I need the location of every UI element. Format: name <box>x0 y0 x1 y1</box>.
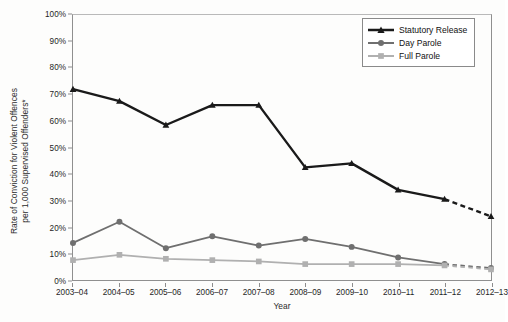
x-axis-tick-mark <box>445 283 446 287</box>
y-axis-ticks: 0%10%20%30%40%50%60%70%80%90%100% <box>36 8 72 288</box>
data-point <box>302 236 308 242</box>
y-axis-tick-label: 70% <box>50 90 66 99</box>
legend-item-statutory-release: Statutory Release <box>368 23 467 36</box>
x-axis-tick-label: 2012–13 <box>476 288 508 297</box>
x-axis-title: Year <box>72 301 492 311</box>
y-axis-title-line-2: per 1,000 Supervised Offenders* <box>20 88 32 234</box>
x-axis-tick-label: 2005–06 <box>149 288 181 297</box>
y-axis-tick-label: 30% <box>50 196 66 205</box>
legend-marker-circle-icon <box>368 37 394 48</box>
y-axis-title: Rate of Conviction for Violent Offences … <box>0 0 40 322</box>
data-point <box>256 243 262 249</box>
legend-marker-triangle-icon <box>368 24 394 35</box>
y-axis-tick-label: 90% <box>50 36 66 45</box>
data-point <box>488 267 494 273</box>
data-point <box>70 240 76 246</box>
x-axis-tick-label: 2008–09 <box>289 288 321 297</box>
y-axis-tick-label: 10% <box>50 250 66 259</box>
x-axis-tick-mark <box>259 283 260 287</box>
x-axis-tick-mark <box>352 283 353 287</box>
y-axis-tick-label: 0% <box>54 277 66 286</box>
data-point <box>349 244 355 250</box>
data-point <box>163 245 169 251</box>
x-axis-tick-label: 2006–07 <box>196 288 228 297</box>
x-axis-tick-mark <box>399 283 400 287</box>
x-axis-tick-label: 2003–04 <box>56 288 88 297</box>
data-point <box>209 233 215 239</box>
series-line-projected <box>445 199 491 216</box>
series-statutory-release <box>70 86 495 219</box>
legend-marker-square-icon <box>368 50 394 61</box>
data-point <box>442 263 448 269</box>
y-axis-tick-label: 50% <box>50 143 66 152</box>
x-axis-tick-label: 2004–05 <box>103 288 135 297</box>
x-axis-tick-mark <box>119 283 120 287</box>
data-point <box>163 256 169 262</box>
legend: Statutory ReleaseDay ParoleFull Parole <box>362 18 475 67</box>
y-axis-tick-label: 80% <box>50 63 66 72</box>
x-axis-tick-mark <box>212 283 213 287</box>
y-axis-tick-label: 20% <box>50 223 66 232</box>
legend-label: Day Parole <box>399 38 442 48</box>
x-axis-tick-label: 2007–08 <box>243 288 275 297</box>
x-axis-ticks: 2003–042004–052005–062006–072007–082008–… <box>72 283 492 301</box>
y-axis-tick-label: 60% <box>50 116 66 125</box>
series-line-projected <box>445 265 491 269</box>
data-point <box>395 254 401 260</box>
data-point <box>70 257 76 263</box>
x-axis-tick-label: 2011–12 <box>430 288 461 297</box>
y-axis-tick-label: 40% <box>50 170 66 179</box>
data-point <box>302 261 308 267</box>
data-point <box>256 259 262 265</box>
data-point <box>349 261 355 267</box>
x-axis-tick-label: 2010–11 <box>383 288 414 297</box>
series-line-projected <box>445 264 491 268</box>
data-point <box>117 252 123 258</box>
legend-item-day-parole: Day Parole <box>368 36 467 49</box>
y-axis-title-line-1: Rate of Conviction for Violent Offences <box>9 88 21 234</box>
data-point <box>395 261 401 267</box>
x-axis-tick-label: 2009–10 <box>336 288 368 297</box>
data-point <box>209 257 215 263</box>
legend-label: Statutory Release <box>399 25 467 35</box>
data-point <box>116 219 122 225</box>
y-axis-tick-label: 100% <box>45 10 66 19</box>
x-axis-tick-mark <box>492 283 493 287</box>
x-axis-tick-mark <box>305 283 306 287</box>
x-axis-tick-mark <box>165 283 166 287</box>
legend-label: Full Parole <box>399 51 440 61</box>
legend-item-full-parole: Full Parole <box>368 49 467 62</box>
x-axis-tick-mark <box>72 283 73 287</box>
